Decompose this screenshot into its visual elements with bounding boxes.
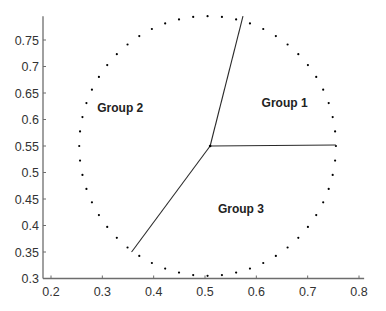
data-point xyxy=(328,102,330,104)
data-point xyxy=(106,64,108,66)
boundary-line xyxy=(210,145,336,146)
plot-canvas: 0.20.30.40.50.60.70.80.30.350.40.450.50.… xyxy=(0,0,386,311)
y-tick-label: 0.65 xyxy=(15,87,39,101)
data-point xyxy=(221,274,223,276)
data-point xyxy=(151,262,153,264)
y-tick-label: 0.45 xyxy=(15,193,39,207)
data-point xyxy=(78,145,80,147)
data-point xyxy=(322,201,324,203)
data-point xyxy=(206,275,208,277)
data-point xyxy=(151,28,153,30)
data-point xyxy=(334,159,336,161)
chart: 0.20.30.40.50.60.70.80.30.350.40.450.50.… xyxy=(0,0,386,311)
data-point xyxy=(235,18,237,20)
y-tick-label: 0.75 xyxy=(15,34,39,48)
data-point xyxy=(328,188,330,190)
data-point xyxy=(178,18,180,20)
x-tick-label: 0.7 xyxy=(299,285,316,299)
data-point xyxy=(106,226,108,228)
data-point xyxy=(98,76,100,78)
boundary-lines xyxy=(132,16,336,252)
data-point xyxy=(98,214,100,216)
data-point xyxy=(221,16,223,18)
data-point xyxy=(307,226,309,228)
group-label-3: Group 3 xyxy=(218,202,264,216)
data-point xyxy=(85,188,87,190)
center-point xyxy=(209,145,212,148)
y-tick-label: 0.4 xyxy=(22,219,39,233)
data-point xyxy=(85,102,87,104)
data-points xyxy=(78,15,337,277)
data-point xyxy=(79,159,81,161)
x-tick-label: 0.3 xyxy=(94,285,111,299)
boundary-line xyxy=(210,16,243,146)
y-tick-label: 0.55 xyxy=(15,140,39,154)
data-point xyxy=(249,267,251,269)
y-tick-label: 0.5 xyxy=(22,166,39,180)
data-point xyxy=(249,22,251,24)
data-point xyxy=(116,53,118,55)
data-point xyxy=(315,214,317,216)
data-point xyxy=(307,64,309,66)
data-point xyxy=(262,262,264,264)
data-point xyxy=(286,246,288,248)
x-tick-label: 0.5 xyxy=(196,285,213,299)
data-point xyxy=(286,43,288,45)
boundary-line xyxy=(132,146,211,252)
data-point xyxy=(138,35,140,37)
group-label-2: Group 2 xyxy=(97,101,143,115)
x-tick-label: 0.4 xyxy=(145,285,162,299)
data-point xyxy=(332,116,334,118)
data-point xyxy=(164,267,166,269)
data-point xyxy=(91,201,93,203)
data-point xyxy=(297,53,299,55)
data-point xyxy=(116,237,118,239)
data-point xyxy=(192,16,194,18)
data-point xyxy=(322,89,324,91)
data-point xyxy=(178,271,180,273)
data-point xyxy=(275,255,277,257)
y-tick-label: 0.3 xyxy=(22,272,39,286)
data-point xyxy=(235,271,237,273)
data-point xyxy=(334,130,336,132)
y-tick-label: 0.6 xyxy=(22,113,39,127)
data-point xyxy=(332,174,334,176)
x-tick-label: 0.8 xyxy=(350,285,367,299)
data-point xyxy=(91,89,93,91)
data-point xyxy=(262,28,264,30)
data-point xyxy=(164,22,166,24)
x-tick-label: 0.2 xyxy=(42,285,59,299)
data-point xyxy=(81,116,83,118)
data-point xyxy=(138,255,140,257)
y-tick-label: 0.35 xyxy=(15,246,39,260)
data-point xyxy=(192,274,194,276)
data-point xyxy=(81,174,83,176)
y-tick-label: 0.7 xyxy=(22,60,39,74)
data-point xyxy=(126,246,128,248)
data-point xyxy=(275,35,277,37)
axes: 0.20.30.40.50.60.70.80.30.350.40.450.50.… xyxy=(15,16,368,298)
data-point xyxy=(206,15,208,17)
data-point xyxy=(315,76,317,78)
data-point xyxy=(126,43,128,45)
x-tick-label: 0.6 xyxy=(248,285,265,299)
group-label-1: Group 1 xyxy=(262,96,308,110)
data-point xyxy=(79,130,81,132)
data-point xyxy=(297,237,299,239)
